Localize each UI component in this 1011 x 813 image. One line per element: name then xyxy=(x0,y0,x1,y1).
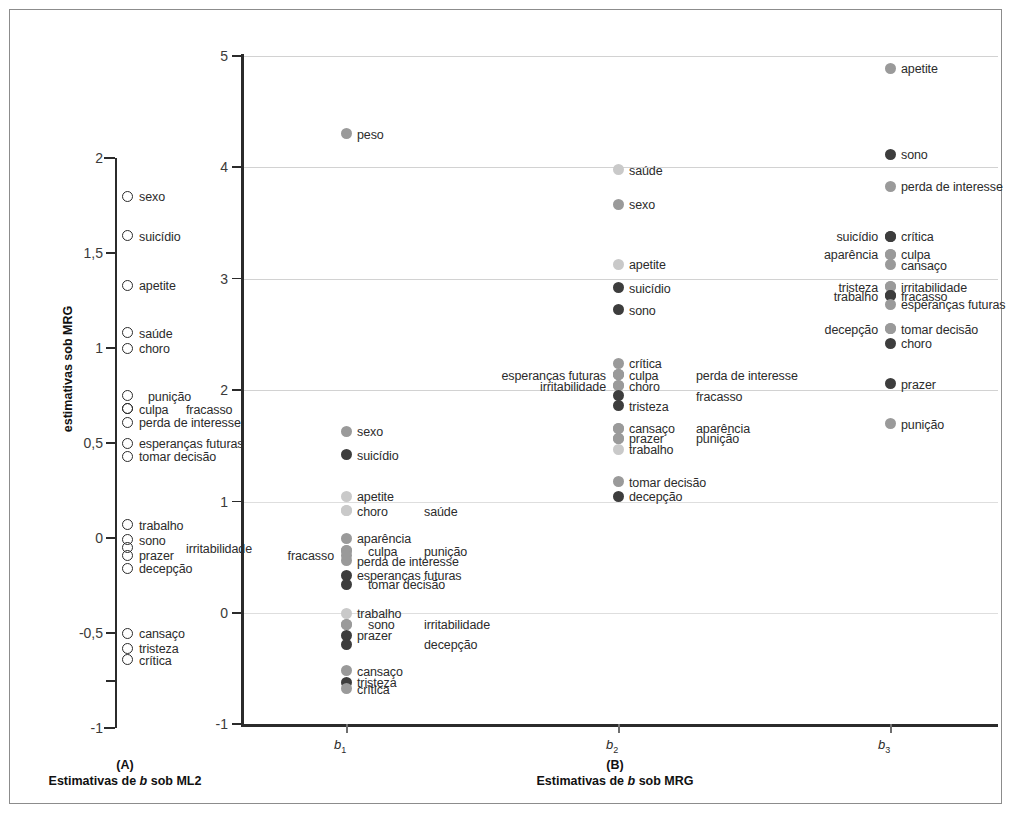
panel-b-marker xyxy=(613,476,624,487)
panel-b-gridline xyxy=(243,56,998,57)
panel-b-x-label-b1: b1 xyxy=(334,737,346,755)
panel-b-point-label: sexo xyxy=(629,199,655,212)
panel-b-point-label: decepção xyxy=(728,324,878,337)
panel-b-point-label: sono xyxy=(901,149,928,162)
panel-b-point-label: suicídio xyxy=(629,283,671,296)
panel-b-point-label: perda de interesse xyxy=(357,556,459,569)
panel-b-point-label: prazer xyxy=(357,630,392,643)
panel-b-tick xyxy=(232,389,242,391)
panel-b-point-label: crítica xyxy=(901,231,934,244)
panel-b-tick-label: 1 xyxy=(178,495,228,509)
panel-b-point-label: esperanças futuras xyxy=(901,299,1006,312)
panel-b-point-label: aparência xyxy=(357,533,411,546)
panel-b-point-label: punição xyxy=(696,433,739,446)
panel-b-point-label: choro xyxy=(357,506,388,519)
panel-b-marker xyxy=(613,259,624,270)
panel-b: 543210-1 b1b2b3 pesosexosuicídioapetitec… xyxy=(10,10,1003,803)
panel-b-point-label: aparência xyxy=(728,249,878,262)
panel-b-marker xyxy=(341,555,352,566)
panel-b-point-label: fracasso xyxy=(184,550,334,563)
panel-b-point-label: tomar decisão xyxy=(901,324,978,337)
panel-b-point-label: sono xyxy=(629,305,656,318)
panel-b-point-label: suicídio xyxy=(728,231,878,244)
panel-b-y-axis-title: estimativas sob MRG xyxy=(61,279,75,459)
panel-b-marker xyxy=(341,579,352,590)
panel-b-point-label: crítica xyxy=(357,684,390,697)
panel-b-marker xyxy=(885,338,896,349)
panel-b-caption-text: Estimativas de b sob MRG xyxy=(537,774,694,788)
panel-b-point-label: apetite xyxy=(901,63,938,76)
panel-b-point-label: trabalho xyxy=(629,444,673,457)
panel-b-marker xyxy=(341,449,352,460)
panel-b-tick-label: 0 xyxy=(178,606,228,620)
panel-b-marker xyxy=(613,444,624,455)
panel-b-marker xyxy=(613,400,624,411)
panel-b-tick xyxy=(232,166,242,168)
panel-b-marker xyxy=(613,369,624,380)
panel-b-tick-label: 2 xyxy=(178,383,228,397)
panel-b-marker xyxy=(885,299,896,310)
panel-b-marker xyxy=(613,164,624,175)
panel-b-caption-id: (B) xyxy=(530,758,700,774)
panel-b-marker xyxy=(341,608,352,619)
panel-b-point-label: saúde xyxy=(629,165,663,178)
panel-b-marker xyxy=(613,423,624,434)
panel-b-point-label: prazer xyxy=(901,379,936,392)
panel-b-point-label: cansaço xyxy=(901,260,947,273)
panel-b-marker xyxy=(341,665,352,676)
panel-b-marker xyxy=(613,282,624,293)
panel-b-marker xyxy=(885,231,896,242)
panel-b-marker xyxy=(613,433,624,444)
panel-b-point-label: tomar decisão xyxy=(368,579,445,592)
panel-b-caption: Estimativas de b sob MRG xyxy=(495,774,735,790)
panel-b-marker xyxy=(341,639,352,650)
panel-b-marker xyxy=(613,304,624,315)
panel-b-x-tick xyxy=(346,724,348,733)
panel-b-marker xyxy=(341,533,352,544)
panel-b-point-label: punição xyxy=(901,419,944,432)
panel-b-marker xyxy=(885,181,896,192)
panel-b-x-tick xyxy=(618,724,620,733)
panel-b-x-tick xyxy=(890,724,892,733)
panel-b-marker xyxy=(885,259,896,270)
panel-b-tick-label: 3 xyxy=(178,272,228,286)
panel-b-gridline xyxy=(243,279,998,280)
panel-b-marker xyxy=(885,323,896,334)
panel-b-tick xyxy=(232,501,242,503)
panel-b-marker xyxy=(341,426,352,437)
panel-b-marker xyxy=(885,149,896,160)
panel-b-marker xyxy=(341,619,352,630)
panel-b-tick xyxy=(232,278,242,280)
panel-b-point-label: trabalho xyxy=(728,291,878,304)
panel-b-tick-label: 5 xyxy=(178,49,228,63)
panel-b-tick xyxy=(232,723,242,725)
panel-b-marker xyxy=(341,683,352,694)
panel-b-point-label: fracasso xyxy=(696,391,742,404)
panel-b-point-label: choro xyxy=(901,338,932,351)
figure-frame: 21,510,50-0,5-1 sexosuicídioapetitesaúde… xyxy=(9,9,1002,804)
panel-b-marker xyxy=(885,418,896,429)
panel-b-point-label: apetite xyxy=(357,491,394,504)
panel-b-marker xyxy=(613,491,624,502)
panel-b-point-label: apetite xyxy=(629,259,666,272)
panel-b-point-label: tomar decisão xyxy=(629,477,706,490)
panel-b-marker xyxy=(613,358,624,369)
panel-b-point-label: suicídio xyxy=(357,450,399,463)
panel-b-point-label: irritabilidade xyxy=(456,381,606,394)
panel-b-marker xyxy=(341,491,352,502)
panel-b-tick-label: 4 xyxy=(178,160,228,174)
panel-b-marker xyxy=(885,378,896,389)
figure-root: 21,510,50-0,5-1 sexosuicídioapetitesaúde… xyxy=(0,0,1011,813)
panel-b-point-label: choro xyxy=(629,381,660,394)
panel-b-point-label: perda de interesse xyxy=(696,370,798,383)
panel-b-point-label: decepção xyxy=(629,491,682,504)
panel-b-tick xyxy=(232,55,242,57)
panel-b-point-label: irritabilidade xyxy=(424,619,490,632)
panel-b-x-label-b2: b2 xyxy=(606,737,618,755)
panel-b-marker xyxy=(613,199,624,210)
panel-b-marker xyxy=(341,505,352,516)
panel-b-point-label: saúde xyxy=(424,506,458,519)
panel-b-marker xyxy=(341,128,352,139)
panel-b-point-label: tristeza xyxy=(629,401,669,414)
panel-b-point-label: peso xyxy=(357,129,384,142)
